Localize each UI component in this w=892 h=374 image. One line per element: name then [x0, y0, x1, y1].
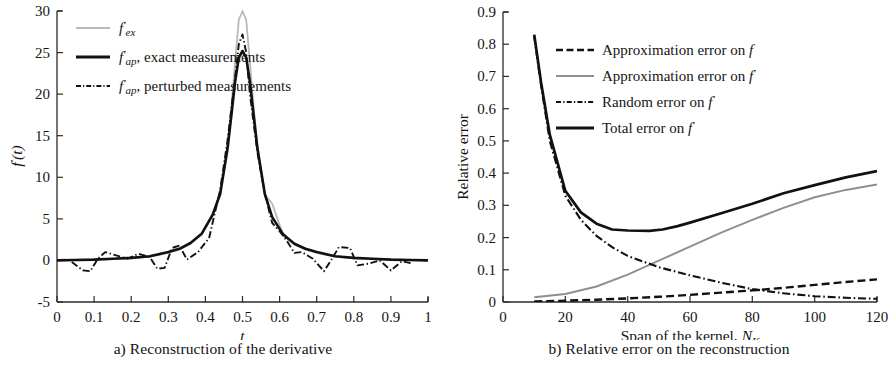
curve-fprime-approx-perturbed: [72, 34, 413, 271]
x-tick-label: 100: [803, 309, 826, 325]
panel-a-x-ticks: [57, 296, 428, 302]
x-tick-label: 0.7: [307, 309, 326, 325]
y-tick-label: 5: [43, 211, 51, 227]
panel-b-ylabel: Relative error: [454, 113, 471, 199]
y-tick-label: 0.2: [477, 230, 496, 246]
panel-b-xlabel-group: Span of the kernel, NK: [621, 327, 760, 340]
x-tick-label: 0.9: [382, 309, 401, 325]
y-tick-label: 25: [35, 45, 50, 61]
panel-a-y-tick-labels: -5 0 5 10 15 20 25 30: [35, 3, 50, 310]
y-tick-label: 0.5: [477, 133, 496, 149]
x-tick-label: 80: [745, 309, 760, 325]
panel-a-y-ticks: [57, 11, 63, 302]
x-tick-label: 20: [558, 309, 573, 325]
panel-b-caption: b) Relative error on the reconstruction: [446, 340, 892, 358]
panel-a-ylabel-group: f′(t): [8, 145, 26, 166]
y-tick-label: 10: [35, 169, 50, 185]
panel-b-xlabel: Span of the kernel, NK: [621, 327, 760, 340]
x-tick-label: 0.1: [85, 309, 104, 325]
x-tick-label: 60: [683, 309, 698, 325]
panel-a-caption: a) Reconstruction of the derivative: [0, 340, 446, 358]
x-tick-label: 0.6: [270, 309, 289, 325]
y-tick-label: 0.6: [477, 101, 496, 117]
panel-b-legend: Approximation error on f Approximation e…: [556, 42, 756, 136]
x-tick-label: 0.3: [159, 309, 178, 325]
x-tick-label: 0.2: [122, 309, 141, 325]
panel-b-x-tick-labels: 0 20 40 60 80 100 120: [499, 309, 888, 325]
panel-a-reconstruction: -5 0 5 10 15 20 25 30 0 0.1 0.2 0.3 0.4 …: [0, 0, 446, 374]
x-tick-label: 40: [620, 309, 635, 325]
figure-container: -5 0 5 10 15 20 25 30 0 0.1 0.2 0.3 0.4 …: [0, 0, 892, 374]
x-tick-label: 0.8: [344, 309, 363, 325]
panel-b-ylabel-group: Relative error: [454, 113, 471, 199]
legend-label-random-error-fprime: Random error on f′: [602, 93, 715, 110]
y-tick-label: 0.8: [477, 36, 496, 52]
panel-b-relative-error: 0 0.1 0.2 0.3 0.4 0.5 0.6 0.7 0.8 0.9 0 …: [446, 0, 892, 374]
panel-b-plot: 0 0.1 0.2 0.3 0.4 0.5 0.6 0.7 0.8 0.9 0 …: [446, 0, 892, 340]
legend-label-total-error-fprime: Total error on f′: [602, 119, 695, 136]
panel-a-legend: f′ex f′ap, exact measurements f′ap, pert…: [76, 19, 291, 96]
x-tick-label: 0.5: [233, 309, 252, 325]
legend-label-approx-error-fprime: Approximation error on f′: [602, 67, 756, 84]
y-tick-label: 0.3: [477, 197, 496, 213]
panel-a-plot: -5 0 5 10 15 20 25 30 0 0.1 0.2 0.3 0.4 …: [0, 0, 446, 340]
panel-a-xlabel: t: [240, 327, 245, 340]
y-tick-label: 0.7: [477, 68, 496, 84]
curve-total-error-fprime: [534, 35, 877, 231]
x-tick-label: 0: [499, 309, 507, 325]
y-tick-label: 20: [35, 86, 50, 102]
panel-a-x-tick-labels: 0 0.1 0.2 0.3 0.4 0.5 0.6 0.7 0.8 0.9 1: [53, 309, 432, 325]
y-tick-label: 30: [35, 3, 50, 19]
x-tick-label: 0: [53, 309, 61, 325]
y-tick-label: 0: [489, 294, 497, 310]
legend-label-fprime-approx-exact: f′ap, exact measurements: [119, 48, 265, 67]
panel-b-y-ticks: [503, 12, 509, 302]
y-tick-label: -5: [38, 294, 51, 310]
panel-b-y-tick-labels: 0 0.1 0.2 0.3 0.4 0.5 0.6 0.7 0.8 0.9: [477, 4, 496, 310]
curve-approx-error-f: [534, 279, 877, 301]
panel-a-ylabel: f′(t): [8, 145, 26, 166]
x-tick-label: 120: [866, 309, 889, 325]
x-tick-label: 1: [424, 309, 432, 325]
y-tick-label: 0.4: [477, 165, 496, 181]
x-tick-label: 0.4: [196, 309, 215, 325]
legend-label-fprime-exact: f′ex: [119, 19, 135, 38]
legend-label-fprime-approx-perturbed: f′ap, perturbed measurements: [119, 77, 291, 96]
legend-label-approx-error-f: Approximation error on f: [602, 42, 755, 58]
y-tick-label: 15: [35, 128, 50, 144]
y-tick-label: 0: [43, 252, 51, 268]
y-tick-label: 0.9: [477, 4, 496, 20]
curve-approx-error-fprime: [534, 184, 877, 297]
y-tick-label: 0.1: [477, 262, 496, 278]
